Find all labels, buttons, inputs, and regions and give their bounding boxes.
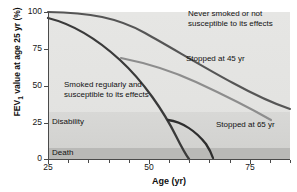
y-tick-100 [44, 12, 48, 13]
y-axis-label-100: 100 [28, 7, 42, 16]
x-tick-85 [290, 160, 291, 163]
annotation-disability: Disability [52, 117, 84, 127]
x-tick-80 [270, 160, 271, 163]
y-axis-title-prefix: FEV [12, 100, 22, 117]
chart-figure: 100 75 50 25 0 25 50 75 FEV1 value at ag… [0, 0, 297, 192]
x-tick-45 [129, 160, 130, 163]
y-axis-title-subscript: 1 [17, 96, 24, 100]
x-tick-60 [189, 160, 190, 163]
annotation-death: Death [52, 148, 73, 158]
y-tick-25 [44, 123, 48, 124]
x-axis-label-50: 50 [144, 163, 153, 172]
x-tick-65 [209, 160, 210, 163]
annotation-stopped-at-65: Stopped at 65 yr [216, 120, 275, 130]
x-axis-label-75: 75 [245, 163, 254, 172]
annotation-smoked-regularly-line1: Smoked regularly and [64, 80, 149, 90]
y-axis-line [48, 12, 49, 160]
x-tick-55 [169, 160, 170, 163]
x-tick-70 [230, 160, 231, 163]
y-tick-50 [44, 86, 48, 87]
y-axis-label-75: 75 [33, 44, 42, 53]
annotation-stopped-at-45: Stopped at 45 yr [186, 54, 245, 64]
annotation-never-smoked: Never smoked or not susceptible to its e… [188, 9, 273, 28]
x-tick-40 [109, 160, 110, 163]
annotation-never-smoked-line1: Never smoked or not [188, 9, 273, 19]
y-axis-title-suffix: value at age 25 yr (%) [12, 7, 22, 96]
annotation-smoked-regularly-line2: susceptible to its effects [64, 90, 149, 100]
curve-stopped-at-65 [168, 120, 213, 158]
y-axis-label-25: 25 [33, 118, 42, 127]
x-axis-title: Age (yr) [48, 176, 290, 186]
y-axis-title: FEV1 value at age 25 yr (%) [13, 0, 25, 137]
y-axis-label-0: 0 [37, 154, 42, 163]
x-tick-30 [68, 160, 69, 163]
x-axis-label-25: 25 [43, 163, 52, 172]
y-axis-label-50: 50 [33, 81, 42, 90]
annotation-never-smoked-line2: susceptible to its effects [188, 19, 273, 29]
x-tick-35 [88, 160, 89, 163]
y-tick-75 [44, 49, 48, 50]
annotation-smoked-regularly: Smoked regularly and susceptible to its … [64, 80, 149, 99]
